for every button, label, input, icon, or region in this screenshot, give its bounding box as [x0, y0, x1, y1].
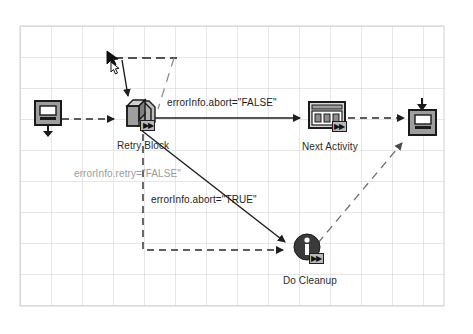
mouse-pointer-icon [105, 50, 127, 80]
edge-label-abort-true: errorInfo.abort="TRUE" [151, 194, 257, 205]
retry-block-stack-icon: ▶▶ [123, 98, 163, 132]
edge-label-retry-false: errorInfo.retry="FALSE" [74, 168, 181, 179]
start-activity-icon [34, 100, 62, 142]
do-cleanup-run-badge: ▶▶ [309, 253, 324, 264]
workflow-diagram-canvas: ▶▶ Retry Block ▶▶ Next Activity [0, 0, 473, 334]
edge-retry-loopback-dashed[interactable] [143, 134, 283, 250]
node-next-activity-label: Next Activity [302, 141, 358, 152]
edge-label-abort-false: errorInfo.abort="FALSE" [167, 97, 277, 108]
retry-block-run-badge: ▶▶ [140, 120, 155, 131]
info-circle-icon: ▶▶ [292, 232, 328, 266]
node-retry-block[interactable]: ▶▶ Retry Block [117, 98, 169, 151]
node-do-cleanup[interactable]: ▶▶ Do Cleanup [283, 232, 337, 286]
node-start[interactable] [34, 100, 62, 145]
edge-cleanup-to-end[interactable] [318, 143, 402, 243]
next-activity-window-icon: ▶▶ [308, 100, 352, 134]
end-activity-icon [408, 98, 438, 142]
node-end[interactable] [408, 98, 438, 145]
next-activity-run-badge: ▶▶ [332, 121, 347, 132]
node-do-cleanup-label: Do Cleanup [283, 275, 337, 286]
edge-layer [0, 0, 473, 334]
node-next-activity[interactable]: ▶▶ Next Activity [302, 100, 358, 152]
node-retry-block-label: Retry Block [117, 140, 169, 151]
